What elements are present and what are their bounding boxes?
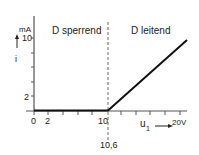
x-var-label: u: [140, 118, 146, 129]
characteristic-curve: [34, 40, 187, 111]
y-tick-10: 10: [22, 33, 32, 43]
y-arrowhead-icon: [15, 34, 19, 39]
y-var-label: i: [15, 54, 17, 64]
x-tick-20: 20V: [172, 118, 187, 127]
x-tick-10: 10: [98, 116, 108, 126]
x-var-subscript: 1: [146, 125, 150, 132]
x-tick-0: 0: [31, 116, 36, 126]
x-tick-2: 2: [45, 116, 50, 126]
threshold-label: 10,6: [100, 140, 118, 150]
x-ticks: [34, 111, 180, 115]
y-tick-2: 2: [24, 92, 29, 102]
region-label-conducting: D leitend: [131, 25, 170, 36]
region-label-blocking: D sperrend: [52, 25, 101, 36]
diode-characteristic-chart: mA 10 2 i 0 2 10 20V u 1 10,6 D sperrend…: [0, 0, 199, 155]
